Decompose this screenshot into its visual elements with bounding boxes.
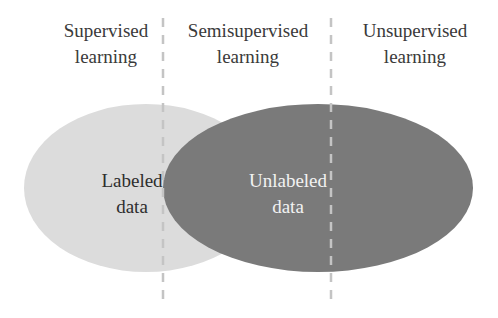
header-supervised-line1: Supervised [52, 18, 160, 44]
learning-paradigms-diagram: Supervised learning Semisupervised learn… [0, 0, 498, 318]
header-unsupervised-line2: learning [345, 44, 485, 70]
header-semisupervised-learning: Semisupervised learning [172, 18, 324, 70]
header-supervised-line2: learning [52, 44, 160, 70]
header-unsupervised-line1: Unsupervised [345, 18, 485, 44]
unlabeled-data-line1: Unlabeled [228, 168, 348, 194]
header-semisupervised-line1: Semisupervised [172, 18, 324, 44]
header-supervised-learning: Supervised learning [52, 18, 160, 70]
labeled-data-line1: Labeled [82, 168, 182, 194]
unlabeled-data-line2: data [228, 194, 348, 220]
header-unsupervised-learning: Unsupervised learning [345, 18, 485, 70]
unlabeled-data-label: Unlabeled data [228, 168, 348, 220]
labeled-data-line2: data [82, 194, 182, 220]
header-semisupervised-line2: learning [172, 44, 324, 70]
labeled-data-label: Labeled data [82, 168, 182, 220]
